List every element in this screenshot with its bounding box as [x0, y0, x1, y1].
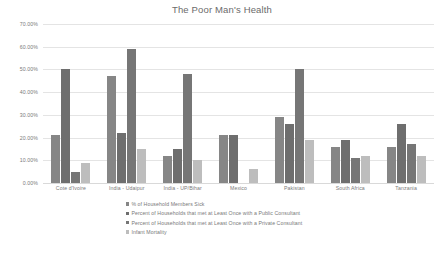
x-axis-category-label: Mexico — [211, 185, 267, 197]
x-axis-category-label: Tanzania — [378, 185, 434, 197]
x-axis-category-label: Cote d'Ivoire — [43, 185, 99, 197]
bar[interactable] — [173, 149, 182, 183]
chart-container: The Poor Man's Health 0.00%10.00%20.00%3… — [0, 0, 444, 261]
y-axis-tick-label: 60.00% — [20, 44, 38, 50]
bar[interactable] — [417, 156, 426, 183]
bar[interactable] — [71, 172, 80, 183]
bar-group — [43, 24, 99, 183]
legend-swatch-icon — [126, 230, 129, 233]
chart-title: The Poor Man's Health — [0, 4, 444, 15]
bar-groups — [43, 24, 434, 183]
gridline — [43, 183, 434, 184]
bar[interactable] — [397, 124, 406, 183]
y-axis-tick-label: 70.00% — [20, 21, 38, 27]
bar[interactable] — [127, 49, 136, 183]
y-axis-tick-label: 30.00% — [20, 112, 38, 118]
bar[interactable] — [117, 133, 126, 183]
y-axis-tick-label: 10.00% — [20, 157, 38, 163]
bar[interactable] — [295, 69, 304, 183]
y-axis-tick-label: 20.00% — [20, 135, 38, 141]
legend-item[interactable]: Percent of Households that met at Least … — [126, 220, 302, 226]
bar[interactable] — [361, 156, 370, 183]
x-axis-category-label: India - Udaipur — [99, 185, 155, 197]
legend-item[interactable]: Percent of Households that met at Least … — [126, 210, 302, 216]
legend-swatch-icon — [126, 202, 129, 205]
bar[interactable] — [331, 147, 340, 183]
bar[interactable] — [163, 156, 172, 183]
x-axis-category-label: India - UP/Bihar — [155, 185, 211, 197]
legend-label: Percent of Households that met at Least … — [131, 220, 302, 226]
bar[interactable] — [81, 163, 90, 183]
bar[interactable] — [229, 135, 238, 183]
legend-label: % of Household Members Sick — [131, 201, 204, 207]
bar[interactable] — [183, 74, 192, 183]
legend-item[interactable]: Infant Mortality — [126, 229, 302, 235]
legend-swatch-icon — [126, 221, 129, 224]
bar[interactable] — [61, 69, 70, 183]
bar-group — [155, 24, 211, 183]
bar[interactable] — [219, 135, 228, 183]
bar-group — [211, 24, 267, 183]
legend-label: Infant Mortality — [131, 229, 166, 235]
x-axis-category-label: South Africa — [322, 185, 378, 197]
bar[interactable] — [387, 147, 396, 183]
bar[interactable] — [341, 140, 350, 183]
bar[interactable] — [107, 76, 116, 183]
legend-swatch-icon — [126, 212, 129, 215]
x-axis-category-label: Pakistan — [266, 185, 322, 197]
bar[interactable] — [407, 144, 416, 183]
bar-group — [99, 24, 155, 183]
bar[interactable] — [137, 149, 146, 183]
legend-item[interactable]: % of Household Members Sick — [126, 201, 302, 207]
bar[interactable] — [51, 135, 60, 183]
plot-area — [43, 24, 434, 183]
bar[interactable] — [249, 169, 258, 183]
bar[interactable] — [193, 160, 202, 183]
y-axis-tick-label: 40.00% — [20, 89, 38, 95]
bar-group — [378, 24, 434, 183]
bar[interactable] — [351, 158, 360, 183]
y-axis-tick-label: 50.00% — [20, 66, 38, 72]
legend-label: Percent of Households that met at Least … — [131, 210, 300, 216]
bar[interactable] — [305, 140, 314, 183]
y-axis-tick-label: 0.00% — [23, 180, 38, 186]
bar[interactable] — [285, 124, 294, 183]
bar[interactable] — [275, 117, 284, 183]
x-axis: Cote d'IvoireIndia - UdaipurIndia - UP/B… — [43, 185, 434, 197]
bar-group — [266, 24, 322, 183]
bar-group — [322, 24, 378, 183]
chart-legend: % of Household Members SickPercent of Ho… — [126, 201, 302, 235]
y-axis: 0.00%10.00%20.00%30.00%40.00%50.00%60.00… — [0, 24, 41, 183]
